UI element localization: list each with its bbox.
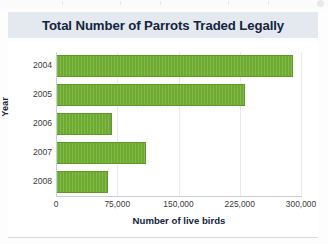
- bar: [56, 142, 146, 164]
- y-axis-title: Year: [0, 97, 10, 116]
- y-tick-label: 2008: [8, 176, 52, 186]
- plot-area: [56, 52, 301, 196]
- x-axis-title: Number of live birds: [56, 215, 302, 226]
- scan-dot-icon: [317, 0, 324, 7]
- y-axis-line: [56, 52, 57, 197]
- y-tick-label: 2005: [8, 89, 52, 99]
- y-tick-label: 2004: [8, 60, 52, 70]
- x-tick-label: 75,000: [104, 199, 130, 209]
- bar: [56, 84, 245, 106]
- chart-title: Total Number of Parrots Traded Legally: [8, 12, 318, 38]
- scan-artifact-strip: [0, 0, 328, 9]
- x-axis-line: [56, 196, 302, 197]
- x-tick-label: 0: [54, 199, 59, 209]
- y-tick-label: 2006: [8, 118, 52, 128]
- x-tick-label: 150,000: [163, 199, 193, 209]
- bar: [56, 55, 293, 77]
- x-tick-label: 225,000: [225, 199, 255, 209]
- bar: [56, 171, 108, 193]
- bar: [56, 113, 112, 135]
- y-axis-tick-labels: 20042005200620072008: [4, 52, 52, 196]
- y-tick-label: 2007: [8, 147, 52, 157]
- x-tick-label: 300,000: [286, 199, 316, 209]
- chart-figure: Total Number of Parrots Traded Legally 2…: [0, 0, 328, 244]
- gridline: [301, 52, 302, 196]
